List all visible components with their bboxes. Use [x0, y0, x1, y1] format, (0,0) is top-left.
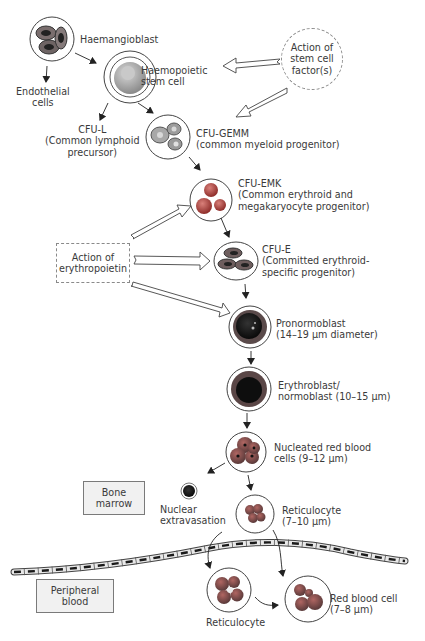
peripheral-blood-region-label: Peripheral blood	[36, 579, 114, 613]
label-erythroblast: Erythroblast/ normoblast (10–15 μm)	[278, 380, 391, 403]
label-pronormoblast: Pronormoblast (14–19 μm diameter)	[276, 318, 378, 341]
label-cfu-emk: CFU-EMK (Common erythroid and megakaryoc…	[238, 178, 369, 212]
erythropoiesis-diagram: Haemangioblast Endothelial cells Haemopo…	[0, 0, 425, 641]
label-cfu-e: CFU-E (Committed erythroid- specific pro…	[262, 244, 369, 278]
cfu-e-cell-icon	[214, 242, 258, 280]
extruded-nucleus-icon	[181, 483, 197, 499]
erythroblast-cell-icon	[227, 367, 271, 411]
label-haemangioblast: Haemangioblast	[80, 34, 158, 45]
bone-marrow-region-label: Bone marrow	[83, 481, 145, 515]
label-hsc: Haemopoietic stem cell	[141, 65, 207, 88]
red-blood-cell-icon	[285, 576, 331, 622]
label-cfu-gemm: CFU-GEMM (common myeloid progenitor)	[196, 128, 340, 151]
label-nucleated-rbc: Nucleated red blood cells (9–12 μm)	[274, 442, 371, 465]
pronormoblast-cell-icon	[229, 306, 271, 348]
label-endothelial-cells: Endothelial cells	[16, 86, 70, 109]
label-reticulocyte-marrow: Reticulocyte (7–10 μm)	[282, 505, 341, 528]
reticulocyte-marrow-cell-icon	[236, 495, 274, 533]
label-cfu-l: CFU-L (Common lymphoid precursor)	[45, 124, 140, 158]
label-red-blood-cell: Red blood cell (7–8 μm)	[330, 593, 397, 616]
nucleated-rbc-cell-icon	[226, 432, 266, 472]
reticulocyte-blood-cell-icon	[207, 568, 251, 612]
label-reticulocyte-blood: Reticulocyte	[206, 617, 265, 628]
cfu-gemm-cell-icon	[146, 115, 190, 159]
haemangioblast-cell-icon	[30, 17, 74, 61]
cfu-emk-cell-icon	[190, 179, 232, 221]
erythropoietin-box: Action of erythropoietin	[56, 243, 130, 283]
label-nuclear-extravasation: Nuclear extravasation	[160, 504, 226, 527]
stem-cell-factor-bubble: Action of stem cell factor(s)	[281, 28, 343, 90]
